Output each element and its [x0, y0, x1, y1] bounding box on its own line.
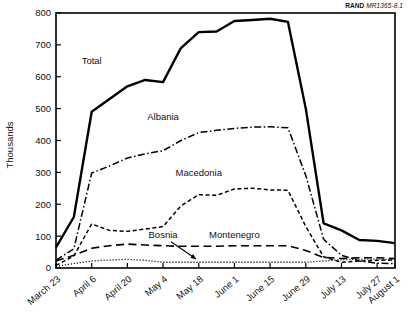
x-axis-tick-label: June 1 — [212, 273, 241, 300]
y-axis-tick-label: 600 — [35, 71, 51, 82]
x-axis-tick-label: June 29 — [279, 273, 312, 303]
x-axis-tick-label: June 15 — [243, 273, 276, 303]
series-line-macedonia — [56, 188, 395, 265]
source-tag-id: MR1365-8.1 — [366, 2, 403, 9]
series-annotations: TotalAlbaniaMacedoniaBosniaMontenegro — [82, 55, 260, 259]
y-axis-tick-label: 800 — [35, 7, 51, 18]
y-axis-tick-label: 500 — [35, 103, 51, 114]
line-chart-svg: Thousands 0100200300400500600700800 Marc… — [0, 0, 407, 314]
y-axis-tick-label: 700 — [35, 39, 51, 50]
annotation-label-total: Total — [82, 55, 102, 66]
x-axis-tick-label: May 4 — [142, 273, 169, 298]
annotation-leader-arrowhead — [190, 254, 196, 259]
annotation-label-montenegro: Montenegro — [209, 229, 260, 240]
series-line-montenegro — [56, 244, 395, 261]
x-axis-tick-label: July 13 — [318, 273, 348, 301]
series-line-total — [56, 19, 395, 248]
y-axis-tick-label: 0 — [46, 262, 51, 273]
x-axis-tick-label: April 20 — [102, 273, 134, 302]
x-axis-tick-label: April 6 — [70, 273, 98, 299]
x-axis-tick-label: May 18 — [174, 273, 205, 301]
y-axis-tick-label: 100 — [35, 231, 51, 242]
x-axis-tick-label: March 23 — [25, 273, 62, 307]
y-axis-tick-label: 300 — [35, 167, 51, 178]
source-tag: RAND MR1365-8.1 — [345, 2, 403, 9]
y-axis-title: Thousands — [4, 121, 15, 168]
series-line-albania — [56, 127, 395, 264]
annotation-label-albania: Albania — [147, 111, 179, 122]
y-axis-tick-label: 200 — [35, 199, 51, 210]
annotation-label-bosnia: Bosnia — [149, 229, 179, 240]
y-axis-tick-label: 400 — [35, 135, 51, 146]
annotation-label-macedonia: Macedonia — [175, 167, 222, 178]
y-axis-title-group: Thousands — [4, 121, 15, 168]
chart-figure: RAND MR1365-8.1 Thousands 01002003004005… — [0, 0, 407, 314]
source-tag-org: RAND — [345, 2, 364, 9]
y-axis-tick-labels: 0100200300400500600700800 — [35, 7, 51, 273]
x-axis-tick-labels: March 23April 6April 20May 4May 18June 1… — [25, 273, 401, 307]
